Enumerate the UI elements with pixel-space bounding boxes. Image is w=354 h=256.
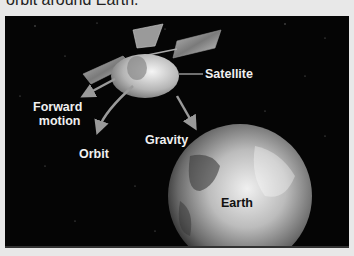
satellite-label: Satellite <box>205 67 253 81</box>
gravity-label: Gravity <box>145 133 188 147</box>
satellite-icon <box>83 24 221 98</box>
diagram-graphics <box>5 16 349 246</box>
orbit-label: Orbit <box>79 147 109 161</box>
satellite-orbit-diagram: Satellite Forward motion Orbit Gravity E… <box>5 16 349 248</box>
forward-motion-label-line1: Forward <box>33 100 82 114</box>
earth-icon <box>168 124 312 246</box>
earth-label: Earth <box>221 196 253 210</box>
gravity-arrow <box>177 96 193 124</box>
orbit-arrow <box>99 86 133 128</box>
forward-motion-label-line2: motion <box>37 114 82 128</box>
forward-motion-label: Forward motion <box>33 100 82 128</box>
caption-text: orbit around Earth. <box>6 0 139 9</box>
